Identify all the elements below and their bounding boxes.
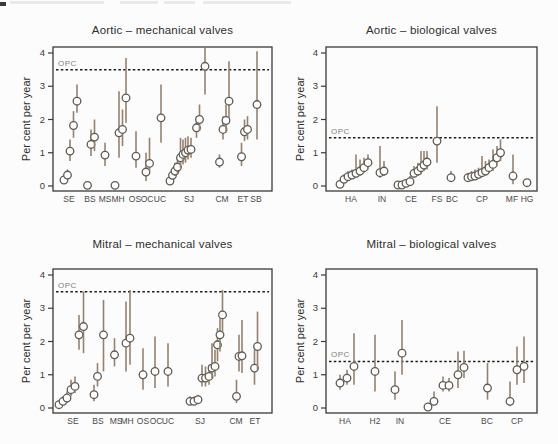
chart-canvas-aortic-biological: 01234OPCHAINCEFSBCCPMFHG [279, 0, 558, 222]
opc-label: OPC [331, 350, 350, 359]
x-axis-group-label: OC [150, 416, 163, 426]
data-point-marker [253, 101, 261, 109]
y-tick-label: 1 [40, 147, 45, 158]
x-axis-group-label: UC [154, 194, 166, 204]
data-point-marker [122, 94, 130, 102]
y-tick-label: 3 [313, 302, 318, 313]
y-tick-label: 0 [40, 402, 45, 413]
y-tick-label: 4 [313, 269, 318, 280]
x-axis-group-label: SE [67, 416, 79, 426]
data-point-marker [146, 160, 154, 168]
y-tick-label: 2 [313, 114, 318, 125]
x-axis-group-label: BC [446, 194, 458, 204]
data-point-marker [364, 159, 372, 167]
y-tick-label: 4 [40, 47, 45, 58]
x-axis-group-label: CP [476, 194, 488, 204]
data-point-marker [66, 147, 74, 155]
y-tick-label: 4 [313, 47, 318, 58]
x-axis-group-label: BS [84, 194, 96, 204]
y-tick-label: 3 [40, 302, 45, 313]
y-tick-label: 0 [40, 180, 45, 191]
data-point-marker [424, 403, 432, 411]
y-tick-label: 0 [313, 402, 318, 413]
y-tick-label: 1 [313, 369, 318, 380]
data-point-marker [254, 343, 262, 351]
y-tick-label: 1 [40, 369, 45, 380]
data-point-marker [238, 352, 246, 360]
opc-label: OPC [331, 127, 350, 136]
data-point-marker [238, 153, 246, 161]
data-point-marker [73, 97, 81, 105]
opc-label: OPC [58, 59, 77, 68]
data-point-marker [201, 63, 209, 71]
data-point-marker [460, 364, 468, 372]
x-axis-group-label: ET [250, 416, 261, 426]
subplot-aortic-mechanical: Aortic – mechanical valves Per cent per … [0, 0, 279, 222]
y-tick-label: 1 [313, 147, 318, 158]
data-point-marker [164, 368, 172, 376]
data-point-marker [151, 368, 159, 376]
data-point-marker [64, 171, 72, 179]
data-point-marker [119, 126, 127, 134]
x-axis-group-label: HA [345, 194, 357, 204]
x-axis-group-label: HA [339, 416, 351, 426]
x-axis-group-label: FS [432, 194, 443, 204]
data-point-marker [142, 168, 150, 176]
data-point-marker [75, 331, 83, 339]
data-point-marker [196, 116, 204, 124]
data-point-marker [244, 126, 252, 134]
data-point-marker [70, 122, 78, 130]
chart-canvas-mitral-biological: 01234OPCHAH2INCEBCCP [279, 222, 558, 444]
x-axis-group-label: MS [99, 194, 112, 204]
data-point-marker [91, 133, 99, 141]
subplot-mitral-biological: Mitral – biological valves Per cent per … [279, 222, 558, 444]
data-point-marker [445, 382, 453, 390]
y-tick-label: 4 [40, 269, 45, 280]
data-point-marker [343, 374, 351, 382]
data-point-marker [84, 182, 92, 190]
data-point-marker [139, 371, 147, 379]
x-axis-group-label: CM [215, 194, 228, 204]
x-axis-group-label: SJ [184, 194, 194, 204]
data-point-marker [211, 363, 219, 371]
x-axis-group-label: BC [481, 416, 493, 426]
data-point-marker [194, 396, 202, 404]
data-point-marker [350, 363, 358, 371]
data-point-marker [225, 97, 233, 105]
subplot-aortic-biological: Aortic – biological valves Per cent per … [279, 0, 558, 222]
data-point-marker [71, 383, 79, 391]
x-axis-group-label: SB [250, 194, 262, 204]
data-point-marker [80, 323, 88, 331]
x-axis-group-label: SJ [195, 416, 205, 426]
data-point-marker [398, 349, 406, 357]
data-point-marker [371, 368, 379, 376]
data-point-marker [63, 394, 71, 402]
y-tick-label: 0 [313, 180, 318, 191]
opc-label: OPC [58, 281, 77, 290]
data-point-marker [433, 137, 441, 145]
data-point-marker [509, 172, 517, 180]
chart-canvas-mitral-mechanical: 01234OPCSEBSMSMHOSOCUCSJCMET [0, 222, 279, 444]
x-axis-group-label: MH [120, 416, 133, 426]
x-axis-group-label: MF [506, 194, 518, 204]
data-point-marker [391, 386, 399, 394]
x-axis-group-label: BS [92, 416, 104, 426]
y-tick-label: 3 [40, 80, 45, 91]
data-point-marker [423, 158, 431, 166]
y-tick-label: 3 [313, 80, 318, 91]
data-point-marker [111, 351, 119, 359]
data-point-marker [523, 179, 531, 187]
x-axis-group-label: OC [141, 194, 154, 204]
data-point-marker [336, 379, 344, 387]
data-point-marker [233, 393, 241, 401]
x-axis-group-label: SE [63, 194, 75, 204]
data-point-marker [447, 174, 455, 182]
data-point-marker [484, 384, 492, 392]
x-axis-group-label: IN [396, 416, 405, 426]
data-point-marker [216, 158, 224, 166]
data-point-marker [132, 152, 140, 160]
x-axis-group-label: CM [229, 416, 242, 426]
data-point-marker [454, 371, 462, 379]
x-axis-group-label: H2 [370, 416, 381, 426]
data-point-marker [506, 398, 514, 406]
